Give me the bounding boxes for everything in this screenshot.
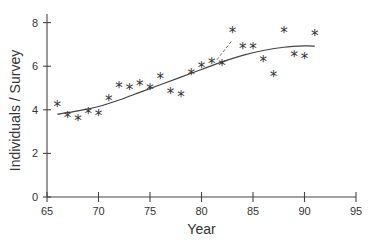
- y-tick-label: 4: [32, 104, 38, 116]
- data-point: *: [187, 66, 195, 84]
- data-point: *: [290, 48, 298, 66]
- data-point: *: [105, 92, 113, 110]
- data-point: *: [239, 40, 247, 58]
- x-axis-title: Year: [187, 221, 216, 237]
- y-tick-label: 0: [32, 191, 38, 203]
- data-point: *: [208, 55, 216, 73]
- data-point: *: [157, 70, 165, 88]
- data-point: *: [126, 81, 134, 99]
- data-point: *: [229, 24, 237, 42]
- y-axis-title: Individuals / Survey: [7, 50, 23, 171]
- data-point: *: [146, 81, 154, 99]
- data-point: *: [84, 105, 92, 123]
- data-point: *: [301, 50, 309, 68]
- x-tick-label: 75: [144, 205, 156, 217]
- x-tick-label: 85: [247, 205, 259, 217]
- data-point: *: [260, 53, 268, 71]
- y-tick-label: 6: [32, 60, 38, 72]
- data-point: *: [115, 79, 123, 97]
- data-point: *: [311, 27, 319, 45]
- data-point: *: [167, 85, 175, 103]
- data-point: *: [218, 57, 226, 75]
- data-point: *: [95, 107, 103, 125]
- data-point: *: [136, 77, 144, 95]
- y-tick-label: 2: [32, 147, 38, 159]
- x-tick-label: 70: [92, 205, 104, 217]
- x-tick-label: 65: [41, 205, 53, 217]
- data-point: *: [198, 59, 206, 77]
- data-point: *: [177, 88, 185, 106]
- data-point: *: [74, 112, 82, 130]
- x-tick-label: 95: [350, 205, 362, 217]
- points-layer: **************************: [54, 24, 320, 129]
- y-tick-label: 8: [32, 17, 38, 29]
- x-tick-label: 80: [195, 205, 207, 217]
- data-point: *: [54, 98, 62, 116]
- x-tick-label: 90: [298, 205, 310, 217]
- data-point: *: [249, 40, 257, 58]
- scatter-chart: 6570758085909502468 ********************…: [0, 0, 368, 243]
- data-point: *: [64, 109, 72, 127]
- data-point: *: [270, 68, 278, 86]
- data-point: *: [280, 24, 288, 42]
